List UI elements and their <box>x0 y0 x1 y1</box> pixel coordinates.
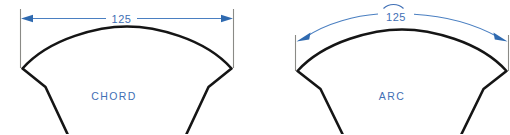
arc-arrowhead-right <box>494 33 508 42</box>
figure-chord: 125 CHORD <box>21 9 234 134</box>
chord-dimension-value: 125 <box>111 13 131 25</box>
arc-symbol-icon <box>384 5 404 9</box>
arc-dimension-value: 125 <box>386 11 406 23</box>
chord-arrowhead-right <box>221 15 233 22</box>
chord-caption: CHORD <box>91 90 137 102</box>
chord-arrowhead-left <box>21 15 33 22</box>
technical-drawing: 125 CHORD 125 ARC <box>0 0 510 134</box>
arc-dimension-line-right <box>414 14 499 37</box>
arc-caption: ARC <box>379 90 405 102</box>
chord-part-outline <box>23 27 232 135</box>
drawing-canvas: 125 CHORD 125 ARC <box>0 0 510 134</box>
arc-part-outline <box>298 30 507 135</box>
figure-arc: 125 ARC <box>296 5 509 134</box>
arc-arrowhead-left <box>297 33 311 42</box>
